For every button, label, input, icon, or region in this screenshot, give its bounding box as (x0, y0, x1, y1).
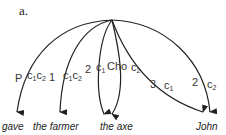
word-the-axe: the axe (100, 122, 133, 132)
label-p-c1c2: c1c2 (27, 70, 46, 82)
label-p: P (15, 73, 22, 84)
label-2-john-c2: c2 (207, 79, 216, 91)
label-1-c1c2: c1c2 (63, 70, 82, 82)
label-2-john: 2 (192, 77, 198, 88)
label-2-c1: c1 (96, 62, 105, 74)
label-2: 2 (85, 64, 91, 75)
word-john: John (196, 122, 218, 132)
label-cho: Cho (107, 61, 127, 72)
label-cho-c2: c2 (131, 62, 140, 74)
word-the-farmer: the farmer (33, 122, 79, 132)
label-1: 1 (49, 72, 55, 83)
label-3: 3 (150, 79, 156, 90)
label-3-c1: c1 (164, 80, 173, 92)
word-gave: gave (2, 122, 24, 132)
dependency-diagram: a. P c1c2 1 c1c2 2 c1 Cho c2 (0, 0, 226, 135)
